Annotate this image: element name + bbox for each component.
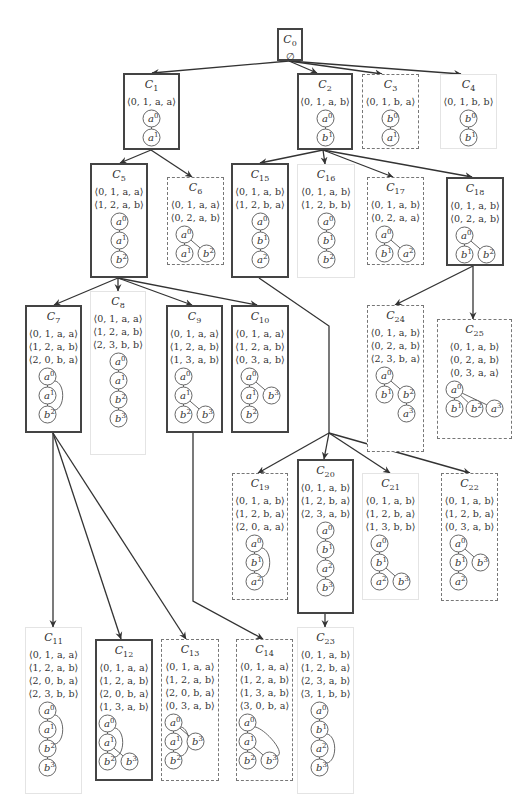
variable-vertex: b1 <box>317 129 334 146</box>
variable-vertex: b1 <box>446 400 463 417</box>
node-label: C <box>384 78 392 91</box>
node-tuple-list: ⟨0, 1, a, b⟩⟨0, 2, a, b⟩⟨0, 3, a, a⟩ <box>438 340 511 379</box>
node-title: C3 <box>363 78 418 95</box>
constraint-tuple: ⟨0, 1, a, b⟩ <box>298 185 354 198</box>
constraint-tuple: ⟨0, 1, a, a⟩ <box>26 648 81 661</box>
variable-vertex: a0 <box>110 353 127 370</box>
variable-vertex: b3 <box>110 410 127 427</box>
variable-vertex: a2 <box>252 251 269 268</box>
tree-edge <box>190 401 199 409</box>
node-c6: C6 ⟨0, 1, a, a⟩⟨0, 2, a, b⟩ a0a1b2 <box>167 177 224 265</box>
constraint-tuple: ⟨0, 1, a, a⟩ <box>97 661 151 674</box>
constraint-tuple: ⟨0, 1, b, a⟩ <box>363 95 418 108</box>
node-label: C <box>317 168 325 181</box>
node-label: C <box>251 168 259 181</box>
node-label: C <box>111 295 119 308</box>
constraint-tuple: ⟨1, 2, a, b⟩ <box>91 325 145 338</box>
variable-vertex: b3 <box>121 753 138 770</box>
node-c23: C23 ⟨0, 1, a, b⟩⟨1, 2, b, a⟩⟨2, 3, a, b⟩… <box>297 627 354 794</box>
constraint-tuple: ⟨2, 0, b, a⟩ <box>26 674 81 687</box>
constraint-tuple: ⟨1, 2, a, b⟩ <box>26 661 81 674</box>
node-c20: C20 ⟨0, 1, a, b⟩⟨1, 2, b, a⟩⟨2, 3, a, b⟩… <box>297 459 354 614</box>
node-title: C14 <box>237 643 292 660</box>
node-title: C23 <box>298 631 353 648</box>
variable-vertex: b2 <box>175 406 192 423</box>
constraint-tuple: ⟨1, 3, a, b⟩ <box>237 686 292 699</box>
constraint-tuple: ⟨2, 3, b, b⟩ <box>91 338 145 351</box>
node-title: C24 <box>368 309 423 326</box>
node-label: C <box>460 477 468 490</box>
variable-tree: a0a1b2 <box>38 367 69 424</box>
constraint-tuple: ⟨1, 2, a, b⟩ <box>162 673 218 686</box>
edge-c1-c5 <box>120 150 151 163</box>
variable-tree: a0b1b2 <box>317 212 336 269</box>
node-label: C <box>466 182 474 195</box>
tree-edge <box>254 747 263 755</box>
node-tuple-list: ⟨0, 1, a, b⟩⟨0, 2, a, b⟩⟨2, 3, b, a⟩ <box>368 326 423 365</box>
variable-vertex: a2 <box>246 573 263 590</box>
node-tuple-list: ⟨0, 1, a, b⟩⟨0, 2, a, a⟩ <box>368 198 423 224</box>
variable-tree: a0a1b2b3 <box>98 714 151 771</box>
constraint-tuple: ⟨3, 1, b, b⟩ <box>298 687 353 700</box>
edge-c0-c1 <box>152 61 289 73</box>
variable-vertex: a0 <box>39 702 56 719</box>
variable-tree: a0b1a2 <box>375 225 416 263</box>
variable-vertex: b2 <box>165 752 182 769</box>
variable-vertex: b0 <box>460 110 477 127</box>
node-c7: C7 ⟨0, 1, a, a⟩⟨1, 2, a, b⟩⟨2, 0, b, a⟩ … <box>25 305 82 433</box>
node-label: C <box>181 643 189 656</box>
constraint-tuple: ⟨0, 2, a, b⟩ <box>368 339 423 352</box>
constraint-tuple: ⟨1, 2, a, b⟩ <box>233 340 287 353</box>
constraint-tuple: ⟨1, 2, a, b⟩ <box>92 198 146 211</box>
node-title: C21 <box>363 477 418 494</box>
variable-tree: a0b1a2 <box>251 212 270 269</box>
constraint-tuple: ⟨1, 3, a, b⟩ <box>97 700 151 713</box>
node-tuple-list: ⟨0, 1, a, b⟩⟨1, 2, b, a⟩⟨2, 3, a, b⟩⟨3, … <box>298 648 353 700</box>
constraint-tuple: ⟨1, 2, b, a⟩ <box>442 507 497 520</box>
constraint-tuple: ⟨3, 0, b, a⟩ <box>237 699 292 712</box>
variable-vertex: a0 <box>252 213 269 230</box>
tree-edge <box>255 382 264 390</box>
node-subscript: 3 <box>392 84 397 93</box>
node-subscript: 9 <box>196 316 201 325</box>
node-c8: C8 ⟨0, 1, a, a⟩⟨1, 2, a, b⟩⟨2, 3, b, b⟩ … <box>90 291 146 455</box>
constraint-tuple: ⟨0, 1, a, b⟩ <box>299 95 351 108</box>
node-tuple-list: ⟨0, 1, b, b⟩ <box>441 95 496 108</box>
variable-vertex: b3 <box>311 759 328 776</box>
variable-tree: a0a1b2b3 <box>38 701 69 777</box>
variable-tree: a0a1b2b3 <box>174 367 215 424</box>
constraint-tuple: ⟨0, 1, a, b⟩ <box>448 199 502 212</box>
variable-vertex: b3 <box>393 573 410 590</box>
node-c1: C1 ⟨0, 1, a, a⟩ a0a1 <box>123 73 180 150</box>
variable-vertex: a0 <box>39 368 56 385</box>
node-tuple-list: ⟨0, 1, a, b⟩⟨0, 2, a, b⟩ <box>448 199 502 225</box>
variable-tree: b0b1 <box>459 109 478 147</box>
constraint-tuple: ⟨2, 0, a, a⟩ <box>233 520 287 533</box>
constraint-tuple: ⟨1, 2, a, b⟩ <box>168 340 221 353</box>
node-label: C <box>112 168 120 181</box>
node-subscript: 6 <box>197 187 202 196</box>
variable-vertex: b3 <box>39 759 56 776</box>
variable-vertex: b1 <box>311 721 328 738</box>
node-subscript: 23 <box>325 637 335 646</box>
variable-vertex: b3 <box>197 406 214 423</box>
node-title: C17 <box>368 181 423 198</box>
variable-vertex: a0 <box>246 535 263 552</box>
variable-vertex: b3 <box>261 752 278 769</box>
variable-tree: a0a1b2b3 <box>240 367 281 424</box>
node-label: C <box>386 309 394 322</box>
constraint-tuple: ⟨2, 0, b, a⟩ <box>97 687 151 700</box>
node-tuple-list: ∅ <box>279 50 301 63</box>
node-c21: C21 ⟨0, 1, a, b⟩⟨1, 2, b, a⟩⟨1, 3, b, b⟩… <box>362 473 419 600</box>
node-label: C <box>189 181 197 194</box>
node-title: C12 <box>97 644 151 661</box>
constraint-tuple: ⟨0, 1, a, b⟩ <box>438 340 511 353</box>
variable-vertex: b2 <box>99 753 116 770</box>
node-c19: C19 ⟨0, 1, a, b⟩⟨1, 2, b, a⟩⟨2, 0, a, a⟩… <box>232 473 288 600</box>
variable-tree: a0b1b2a3 <box>375 366 416 423</box>
variable-vertex: a0 <box>99 715 116 732</box>
node-title: C6 <box>168 181 223 198</box>
node-title: C19 <box>233 477 287 494</box>
node-title: C8 <box>91 295 145 312</box>
node-title: C10 <box>233 310 287 327</box>
